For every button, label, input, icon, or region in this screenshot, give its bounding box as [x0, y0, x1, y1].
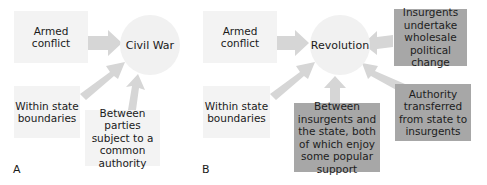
box-text: Authority transferred from state to insu…	[398, 88, 468, 138]
box-text: Between parties subject to a common auth…	[89, 107, 156, 170]
concept-circle-civil-war: Civil War	[120, 15, 180, 75]
box-text: Within state boundaries	[14, 100, 80, 125]
arrow-icon	[80, 62, 125, 100]
arrow-icon	[126, 74, 145, 110]
arrow-icon	[270, 62, 315, 100]
panel-label-a: A	[13, 163, 21, 176]
box-text: Between insurgents and the state, both o…	[297, 100, 377, 175]
circle-text: Civil War	[126, 39, 174, 52]
circle-text: Revolution	[311, 39, 369, 52]
box-text: Armed conflict	[14, 25, 88, 50]
box-text: Within state boundaries	[203, 100, 270, 125]
input-box-armed-conflict: Armed conflict	[14, 11, 88, 63]
box-text: Armed conflict	[203, 25, 277, 50]
panel-label-b: B	[202, 163, 210, 176]
concept-circle-revolution: Revolution	[310, 15, 370, 75]
diagram-canvas: Armed conflict Within state boundaries B…	[0, 0, 487, 185]
arrow-icon	[88, 30, 122, 56]
input-box-between-parties: Between parties subject to a common auth…	[85, 110, 160, 166]
box-text: Insurgents undertake wholesale political…	[397, 6, 464, 69]
input-box-wholesale-change: Insurgents undertake wholesale political…	[394, 9, 467, 66]
input-box-within-state-boundaries: Within state boundaries	[14, 86, 80, 138]
input-box-between-insurgents: Between insurgents and the state, both o…	[294, 103, 380, 172]
input-box-armed-conflict-b: Armed conflict	[203, 11, 277, 63]
input-box-within-state-boundaries-b: Within state boundaries	[203, 86, 270, 138]
arrow-icon	[275, 30, 309, 56]
input-box-authority-transferred: Authority transferred from state to insu…	[395, 84, 471, 141]
